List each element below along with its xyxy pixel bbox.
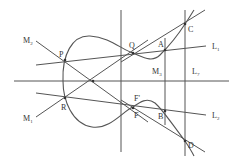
label-d: D	[188, 141, 194, 150]
point-r-dot	[64, 97, 67, 100]
label-l7: L7	[192, 67, 200, 77]
label-c: C	[188, 25, 193, 34]
line-qc	[121, 10, 205, 62]
point-c-dot	[184, 23, 187, 26]
point-b-dot	[164, 110, 167, 113]
point-q-dot	[132, 52, 135, 55]
label-l1: L1	[212, 42, 220, 52]
point-axis-cross-dot	[92, 80, 95, 83]
label-r: R	[61, 103, 67, 112]
label-q: Q	[129, 41, 135, 50]
lower-curve	[63, 81, 194, 156]
label-m3: M3	[152, 67, 162, 77]
label-l2: L2	[212, 111, 220, 121]
point-a-dot	[164, 49, 167, 52]
label-m1: M1	[23, 114, 33, 124]
label-f: F	[134, 111, 139, 120]
label-m2: M2	[23, 36, 33, 46]
label-f-prime: F'	[134, 94, 140, 103]
label-p: P	[59, 50, 64, 59]
point-f-dot	[132, 107, 135, 110]
point-d-dot	[184, 140, 187, 143]
point-p-dot	[64, 59, 67, 62]
label-b: B	[158, 112, 163, 121]
label-a: A	[158, 40, 164, 49]
diagram-canvas: P Q A C R F' F B D M2 M1 M3 L1 L2 L7	[0, 0, 241, 163]
